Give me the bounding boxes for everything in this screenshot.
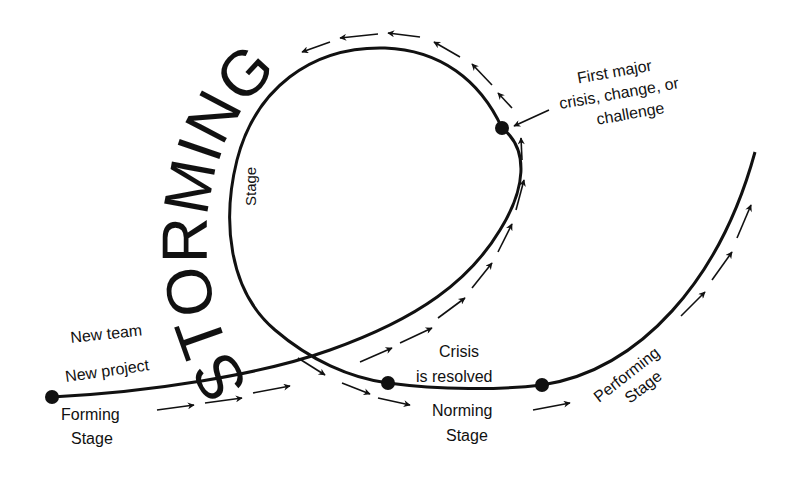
crisis-resolved-line-2: is resolved xyxy=(416,368,492,385)
crisis-resolved-line-1: Crisis xyxy=(439,343,479,360)
storming-title: STORMING xyxy=(149,30,288,414)
resolved-dot xyxy=(381,376,395,390)
new-team-label: New team xyxy=(70,322,143,346)
norming-stage-label: Stage xyxy=(446,427,488,444)
performing-start-dot xyxy=(535,378,549,392)
norming-label: Norming xyxy=(432,402,492,419)
crisis-pointer-arrow xyxy=(514,110,549,126)
forming-stage-label: Stage xyxy=(71,430,113,447)
new-project-label: New project xyxy=(64,356,151,385)
forming-label: Forming xyxy=(61,406,120,423)
storming-stage-label: Stage xyxy=(242,167,259,206)
crisis-dot xyxy=(495,121,509,135)
team-stages-diagram: STORMING Stage New team New project Form… xyxy=(0,0,793,478)
crisis-callout: First major crisis, change, or challenge xyxy=(554,53,684,134)
start-dot xyxy=(45,390,59,404)
